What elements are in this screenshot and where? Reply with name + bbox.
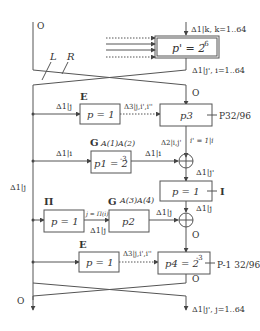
e2-tag: E xyxy=(79,239,87,250)
i-eq-label: i' = 1|i xyxy=(190,137,214,145)
r-label: R xyxy=(66,51,75,62)
e2-out-label: Δ3|j,i',i'' xyxy=(123,250,152,258)
top-input-delta: Δ1|k, k=1..64 xyxy=(191,25,246,34)
pi-tag: Π xyxy=(44,196,53,207)
o-label: O xyxy=(17,296,24,306)
g1-tag: G xyxy=(90,137,99,148)
o-label: O xyxy=(192,230,199,240)
top-sbox-block: p' = 2 -6 xyxy=(155,36,219,58)
l-label: L xyxy=(49,51,57,62)
left-delta-label: Δ1|j xyxy=(10,183,26,192)
pi-out-label: j = Π(i) xyxy=(84,210,109,218)
d1j-label: Δ1|j xyxy=(196,204,212,213)
e1-out-label: Δ3|j,i',i'' xyxy=(124,103,153,111)
p3-label: p3 xyxy=(180,110,193,121)
pi-below-label: Δ1|j xyxy=(90,226,106,235)
p4-side-label: P-1 32/96 xyxy=(217,260,260,270)
d2-label: Δ2|i,j' xyxy=(161,139,182,147)
i-side-label: I xyxy=(220,186,225,197)
o-label: O xyxy=(37,21,44,31)
top-output-delta: Δ1|j', i=1..64 xyxy=(192,66,245,75)
top-block-label: p' = 2 xyxy=(172,42,205,55)
e1-tag: E xyxy=(80,91,88,102)
i-block-label: p = 1 xyxy=(172,186,200,197)
g1-exp: -3 xyxy=(120,155,127,163)
e2-label: p = 1 xyxy=(86,257,114,268)
g1-tag-extra: A(1)A(2) xyxy=(100,139,135,148)
pi-block-label: p = 1 xyxy=(51,216,79,227)
o-label: O xyxy=(192,88,199,98)
p3-side-label: P32/96 xyxy=(219,111,251,121)
e1-block-label: p = 1 xyxy=(87,109,115,120)
g1-out-label: Δ1|i xyxy=(145,149,162,158)
g1-in-label: Δ1|i xyxy=(56,149,73,158)
o-label: O xyxy=(192,274,199,284)
g2-tag: G xyxy=(108,196,117,207)
p4-exp: -3 xyxy=(196,254,203,262)
bottom-delta-label: Δ1|j', j=1..64 xyxy=(192,305,245,314)
d1j-prime-label: Δ1|j' xyxy=(196,168,214,177)
g2-label: p2 xyxy=(122,216,135,227)
g2-out-label: Δ1|j xyxy=(156,208,172,217)
g2-tag-extra: A(3)A(4) xyxy=(119,196,154,205)
p4-label: p4 = 2 xyxy=(165,258,199,269)
top-block-exp: -6 xyxy=(202,40,209,48)
e1-in-label: Δ1|j xyxy=(56,102,72,111)
diagram: p' = 2 -6 Δ1|k, k=1..64 Δ1|j', i=1..64 O… xyxy=(0,0,260,331)
